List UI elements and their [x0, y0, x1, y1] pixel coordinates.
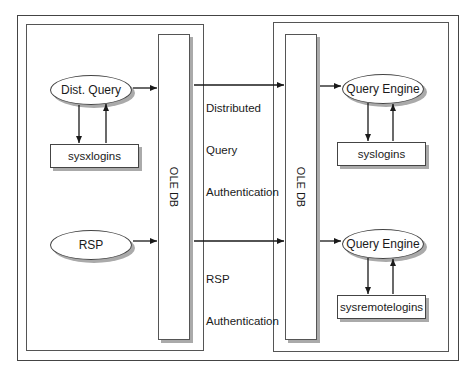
connector-arrows	[0, 0, 469, 380]
